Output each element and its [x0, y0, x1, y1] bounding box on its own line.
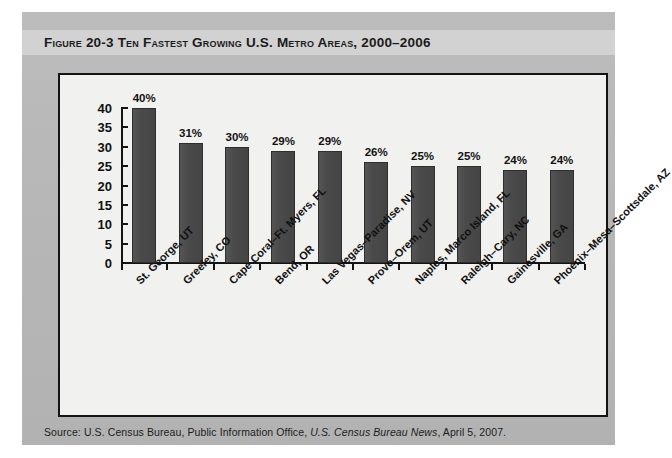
x-tick-mark: [352, 264, 354, 270]
plot-area: 0510152025303540 40%31%30%29%29%26%25%25…: [60, 75, 606, 415]
bar: [318, 151, 342, 263]
source-publication: U.S. Census Bureau News: [310, 426, 437, 438]
bar: [132, 108, 156, 263]
x-tick-mark: [213, 264, 215, 270]
y-tick-label: 25: [88, 160, 112, 173]
bar-value-label: 24%: [493, 155, 537, 167]
y-tick-mark: [121, 185, 128, 187]
figure-page: Figure 20-3 Ten Fastest Growing U.S. Met…: [22, 12, 615, 445]
y-tick-label: 30: [88, 140, 112, 153]
x-tick-mark: [584, 264, 586, 270]
x-tick-mark: [259, 264, 261, 270]
y-tick-mark: [121, 243, 128, 245]
bar: [550, 170, 574, 263]
x-tick-mark: [166, 264, 168, 270]
x-tick-mark: [445, 264, 447, 270]
y-tick-mark: [121, 146, 128, 148]
x-tick-mark: [121, 264, 123, 270]
x-tick-mark: [491, 264, 493, 270]
y-tick-label: 20: [88, 179, 112, 192]
y-tick-label: 35: [88, 121, 112, 134]
figure-title: Figure 20-3 Ten Fastest Growing U.S. Met…: [44, 35, 431, 50]
y-tick-label: 10: [88, 218, 112, 231]
y-tick-mark: [121, 223, 128, 225]
y-tick-mark: [121, 126, 128, 128]
x-tick-mark: [398, 264, 400, 270]
y-tick-label: 5: [88, 237, 112, 250]
source-suffix: , April 5, 2007.: [437, 426, 506, 438]
x-tick-mark: [538, 264, 540, 270]
y-tick-label: 0: [88, 257, 112, 270]
y-tick-label: 15: [88, 198, 112, 211]
source-prefix: Source: U.S. Census Bureau, Public Infor…: [44, 426, 310, 438]
bar-value-label: 29%: [308, 136, 352, 148]
y-tick-mark: [121, 262, 128, 264]
y-tick-mark: [121, 107, 128, 109]
bar-value-label: 31%: [169, 128, 213, 140]
y-tick-mark: [121, 204, 128, 206]
source-note: Source: U.S. Census Bureau, Public Infor…: [44, 426, 506, 438]
y-axis-tick-labels: 0510152025303540: [82, 75, 112, 415]
chart-panel: 0510152025303540 40%31%30%29%29%26%25%25…: [58, 73, 608, 417]
bar-value-label: 25%: [401, 151, 445, 163]
bar: [411, 166, 435, 263]
bar-value-label: 26%: [354, 147, 398, 159]
bar-value-label: 29%: [261, 136, 305, 148]
y-tick-mark: [121, 165, 128, 167]
figure-title-band: Figure 20-3 Ten Fastest Growing U.S. Met…: [22, 30, 615, 55]
bar-value-label: 24%: [540, 155, 584, 167]
y-tick-label: 40: [88, 102, 112, 115]
bar-value-label: 30%: [215, 132, 259, 144]
bar-value-label: 40%: [122, 93, 166, 105]
bar-value-label: 25%: [447, 151, 491, 163]
x-tick-mark: [306, 264, 308, 270]
